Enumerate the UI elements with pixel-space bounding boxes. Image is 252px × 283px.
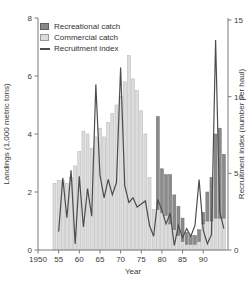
recruitment-index-swatch-icon — [40, 48, 50, 50]
commercial-catch-bar — [119, 96, 122, 250]
recreational-catch-bar — [156, 117, 159, 210]
x-tick-label: 75 — [137, 255, 146, 264]
legend-item-recreational-catch: Recreational catch — [40, 21, 120, 32]
commercial-catch-bar — [156, 209, 159, 250]
x-tick-label: 55 — [54, 255, 63, 264]
recreational-catch-bar — [206, 192, 209, 221]
commercial-catch-bar — [160, 212, 163, 250]
commercial-catch-bar — [189, 244, 192, 250]
y-right-tick-label: 0 — [234, 246, 239, 255]
commercial-catch-bar — [53, 183, 56, 250]
y-left-tick-label: 4 — [28, 130, 33, 139]
recreational-catch-bar — [173, 195, 176, 230]
commercial-catch-bar — [185, 244, 188, 250]
recreational-catch-bar — [198, 230, 201, 242]
commercial-catch-bar — [111, 114, 114, 250]
chart-legend: Recreational catch Commercial catch Recr… — [40, 21, 120, 54]
recreational-catch-swatch-icon — [40, 23, 49, 30]
commercial-catch-bar — [181, 241, 184, 250]
commercial-catch-bar — [144, 134, 147, 250]
commercial-catch-bar — [193, 244, 196, 250]
commercial-catch-bar — [214, 218, 217, 250]
y-axis-right-label: Recruitment index (number per haul) — [237, 69, 246, 200]
commercial-catch-bar — [169, 224, 172, 250]
commercial-catch-bar — [218, 218, 221, 250]
x-tick-label: 90 — [199, 255, 208, 264]
x-tick-label: 1950 — [29, 255, 47, 264]
commercial-catch-bar — [136, 91, 139, 251]
x-tick-label: 60 — [75, 255, 84, 264]
x-tick-label: 70 — [116, 255, 125, 264]
x-tick-label: 65 — [96, 255, 105, 264]
commercial-catch-swatch-icon — [40, 34, 49, 41]
commercial-catch-bar — [140, 111, 143, 250]
y-left-tick-label: 0 — [28, 246, 33, 255]
commercial-catch-bar — [82, 131, 85, 250]
y-left-tick-label: 8 — [28, 14, 33, 23]
commercial-catch-bar — [148, 178, 151, 251]
y-left-tick-label: 2 — [28, 188, 33, 197]
commercial-catch-bar — [177, 236, 180, 251]
chart-canvas: 0246805101519505560657075808590 Landings… — [0, 0, 252, 283]
y-right-tick-label: 15 — [234, 16, 243, 25]
y-axis-left-label: Landings (1,000 metric tons) — [2, 83, 11, 185]
commercial-catch-bar — [127, 56, 130, 250]
recreational-catch-bar — [193, 236, 196, 245]
striped-bass-catch-chart: Recreational catch Commercial catch Recr… — [0, 0, 252, 283]
legend-label-recreational-catch: Recreational catch — [54, 21, 120, 32]
legend-item-commercial-catch: Commercial catch — [40, 32, 120, 43]
commercial-catch-bar — [198, 241, 201, 250]
x-axis-label: Year — [125, 267, 142, 276]
legend-label-recruitment-index: Recruitment index — [54, 43, 118, 54]
commercial-catch-bar — [94, 137, 97, 250]
x-tick-label: 80 — [157, 255, 166, 264]
legend-item-recruitment-index: Recruitment index — [40, 43, 120, 54]
recreational-catch-bar — [185, 233, 188, 245]
recreational-catch-bar — [222, 154, 225, 218]
recreational-catch-bar — [214, 134, 217, 218]
commercial-catch-bar — [206, 221, 209, 250]
y-left-tick-label: 6 — [28, 72, 33, 81]
legend-label-commercial-catch: Commercial catch — [54, 32, 118, 43]
recreational-catch-bar — [165, 175, 168, 216]
commercial-catch-bar — [132, 79, 135, 250]
x-tick-label: 85 — [178, 255, 187, 264]
